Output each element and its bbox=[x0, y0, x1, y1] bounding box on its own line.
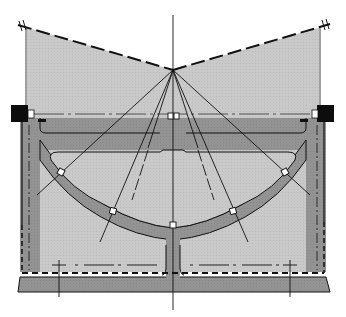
bearing-block-left bbox=[11, 105, 28, 122]
joint-marker-arch-4 bbox=[229, 207, 236, 214]
joint-marker-arch-2 bbox=[109, 207, 116, 214]
base-slab bbox=[18, 277, 330, 292]
bearing-block-right bbox=[317, 105, 334, 122]
bearing-pad-left bbox=[28, 110, 34, 118]
joint-marker-top-center-b bbox=[174, 113, 179, 119]
small-bar-right bbox=[300, 119, 308, 122]
diagram-svg bbox=[0, 0, 346, 317]
small-bar-left bbox=[38, 119, 46, 122]
joint-marker-arch-center bbox=[170, 222, 176, 228]
cross-section-drawing bbox=[0, 0, 346, 317]
joint-marker-top-center-a bbox=[168, 113, 173, 119]
bearing-pad-right bbox=[312, 110, 318, 118]
